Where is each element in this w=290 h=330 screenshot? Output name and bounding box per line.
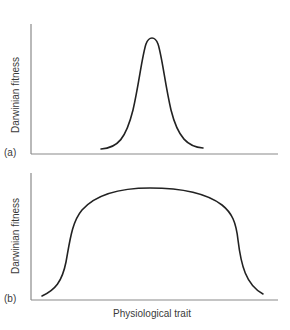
panel-b-axes [31, 173, 278, 300]
panel-a-axes [31, 24, 278, 154]
panel-b-y-axis-label: Darwinian fitness [10, 198, 21, 274]
diagram-canvas [0, 0, 290, 330]
panel-b-label: (b) [4, 293, 16, 304]
panel-b-fitness-curve [42, 188, 263, 296]
panel-a-fitness-curve [101, 38, 203, 149]
fitness-diagram: Darwinian fitness (a) Darwinian fitness … [0, 0, 290, 330]
panel-a-label: (a) [4, 147, 16, 158]
x-axis-label: Physiological trait [113, 308, 191, 319]
panel-a-y-axis-label: Darwinian fitness [10, 57, 21, 133]
